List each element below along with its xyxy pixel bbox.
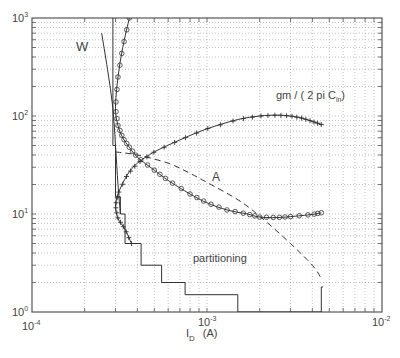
ytick-1e2: 102 — [12, 109, 28, 122]
ytick-1e3: 103 — [12, 11, 28, 24]
a-label: A — [212, 170, 220, 184]
partitioning-label: partitioning — [193, 252, 247, 264]
xtick-1e-4: 10-4 — [22, 319, 41, 332]
w-label: W — [76, 39, 89, 54]
x-axis-label: ID(A) — [186, 327, 218, 343]
series-partitioning — [113, 18, 323, 312]
xtick-1e-2: 10-2 — [372, 315, 391, 328]
chart: 103 102 101 100 10-4 10-3 10-2 ID(A) W g… — [0, 0, 400, 358]
grid-lines — [32, 18, 382, 312]
ytick-1e0: 100 — [12, 305, 28, 318]
gm-label: gm / ( 2 pi Cin) — [276, 89, 345, 103]
ytick-1e1: 101 — [12, 207, 28, 220]
